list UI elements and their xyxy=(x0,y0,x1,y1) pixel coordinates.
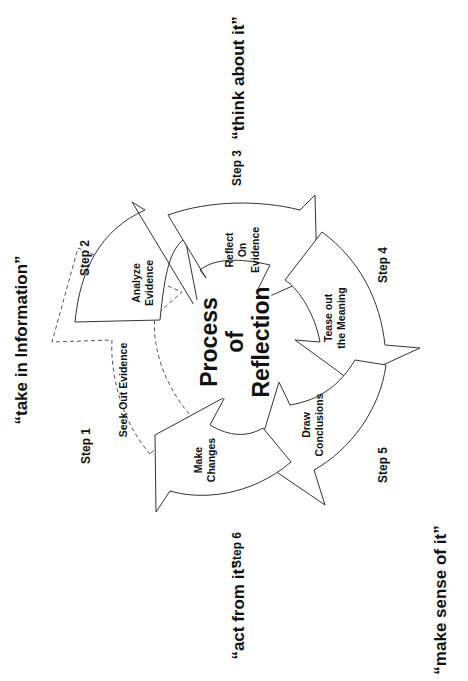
step-2-label: Step 2 xyxy=(78,240,92,276)
center-title-line-1: Process xyxy=(196,297,222,387)
step-5-text-line-1: Draw xyxy=(300,411,312,438)
step-3-text-line-2: On xyxy=(236,243,248,258)
step-5-label: Step 5 xyxy=(376,447,390,483)
step-6-label: Step 6 xyxy=(230,532,244,568)
quote-take-in-information: “take in Information” xyxy=(12,255,31,424)
step-2-text: Analyze Evidence xyxy=(130,260,155,306)
center-title-line-3: Reflection xyxy=(248,286,274,397)
step-6-text-line-1: Make xyxy=(192,447,204,473)
step-2-text-line-2: Evidence xyxy=(143,260,155,306)
step-2-text-line-1: Analyze xyxy=(130,263,142,303)
step-5-text-line-2: Conclusions xyxy=(313,393,325,456)
step-4-text-line-2: the Meaning xyxy=(335,287,347,348)
step-6-text-line-2: Changes xyxy=(205,438,217,483)
step-4-text: Tease out the Meaning xyxy=(322,287,347,348)
step-4-text-line-1: Tease out xyxy=(322,293,334,342)
arrow-step-4 xyxy=(285,232,420,380)
step-3-text-line-1: Reflect xyxy=(223,232,235,268)
step-3-text-line-3: Evidence xyxy=(249,227,261,273)
step-1-text: Seek Out Evidence xyxy=(117,343,129,438)
step-4-label: Step 4 xyxy=(376,247,390,283)
step-3-label: Step 3 xyxy=(230,150,244,186)
quote-think-about-it: “think about it” xyxy=(229,16,248,140)
center-title-line-2: of xyxy=(222,331,248,353)
step-1-label: Step 1 xyxy=(79,428,93,464)
process-of-reflection-diagram: Process of Reflection “take in Informati… xyxy=(0,0,468,681)
quote-make-sense-of-it: “make sense of it” xyxy=(431,525,450,674)
quote-act-from-it: “act from it” xyxy=(229,560,248,659)
